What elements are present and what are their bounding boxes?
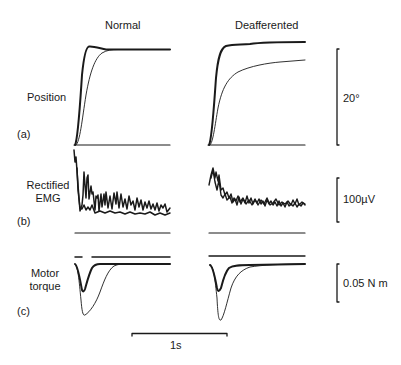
scale-bar-time	[132, 334, 227, 337]
emg-deafferented-plot	[209, 168, 305, 233]
figure-traces	[0, 0, 401, 365]
torque-normal-plot	[75, 257, 170, 315]
position-deafferented-plot	[208, 42, 305, 145]
trace-fast	[75, 264, 170, 291]
scale-bar-emg	[337, 178, 339, 222]
trace-fast	[210, 264, 305, 291]
emg-normal-plot	[74, 150, 170, 233]
torque-deafferented-plot	[209, 256, 305, 320]
position-normal-plot	[74, 46, 170, 145]
trace-slow	[75, 264, 170, 315]
scale-bar-torque	[337, 264, 339, 302]
trace-fast	[75, 46, 170, 145]
trace-fast	[209, 42, 305, 145]
trace-emg-1	[74, 150, 170, 212]
scale-bar-position	[337, 49, 339, 145]
trace-emg-1	[209, 168, 305, 207]
trace-slow	[210, 60, 305, 145]
trace-slow	[210, 264, 305, 320]
trace-slow	[76, 50, 170, 146]
